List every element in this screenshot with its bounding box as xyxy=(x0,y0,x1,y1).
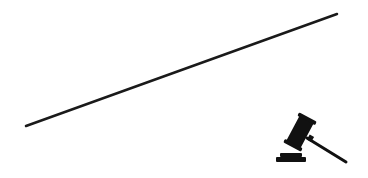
diagonal-line xyxy=(26,14,337,126)
figure-canvas xyxy=(0,0,368,178)
figure-svg xyxy=(0,0,368,178)
gavel-icon xyxy=(276,112,346,162)
